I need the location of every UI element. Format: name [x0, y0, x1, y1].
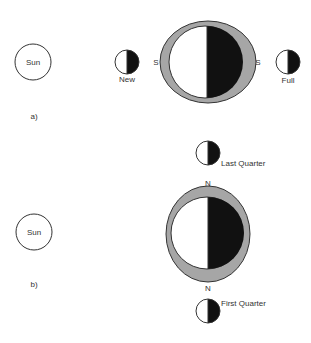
marker-n-bottom: N — [205, 284, 211, 293]
moon-full: Full — [276, 50, 300, 85]
marker-s-left: S — [153, 58, 158, 67]
sun-b: Sun — [16, 214, 52, 250]
earth-b — [166, 186, 250, 282]
moon-phases-diagram: Sun New S S Full a) — [0, 0, 311, 343]
sun-a: Sun — [15, 44, 51, 80]
moon-last-quarter-label: Last Quarter — [221, 159, 266, 168]
earth-a — [160, 21, 256, 103]
sun-label: Sun — [27, 228, 41, 237]
moon-first-quarter: First Quarter — [196, 299, 266, 323]
panel-b-label: b) — [30, 280, 37, 289]
panel-a-label: a) — [30, 112, 37, 121]
panel-b: Last Quarter N Sun N First Quarter b) — [16, 141, 266, 323]
moon-first-quarter-label: First Quarter — [221, 299, 266, 308]
moon-last-quarter: Last Quarter — [196, 141, 266, 168]
moon-full-label: Full — [282, 76, 295, 85]
moon-new-label: New — [119, 75, 135, 84]
panel-a: Sun New S S Full a) — [15, 21, 300, 121]
sun-label: Sun — [26, 58, 40, 67]
moon-new: New — [115, 50, 139, 84]
